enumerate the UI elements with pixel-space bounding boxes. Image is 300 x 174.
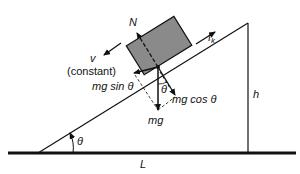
base-angle-label: θ — [77, 135, 83, 147]
velocity-note: (constant) — [67, 65, 116, 77]
mg-sin-label: mg sin θ — [92, 80, 133, 92]
height-label: h — [253, 88, 259, 100]
velocity-arrow — [104, 43, 121, 55]
incline-diagram: N fk v (constant) mg sin θ mg cos θ mg θ… — [0, 0, 300, 174]
velocity-label: v — [90, 52, 97, 64]
weight-label: mg — [148, 114, 164, 126]
diagram-canvas: N fk v (constant) mg sin θ mg cos θ mg θ… — [0, 0, 300, 174]
length-label: L — [140, 158, 146, 170]
block-angle-label: θ — [161, 83, 167, 95]
mg-cos-label: mg cos θ — [172, 93, 217, 105]
normal-force-label: N — [129, 16, 137, 28]
base-angle-arc — [70, 133, 73, 153]
friction-label: fk — [208, 31, 216, 45]
